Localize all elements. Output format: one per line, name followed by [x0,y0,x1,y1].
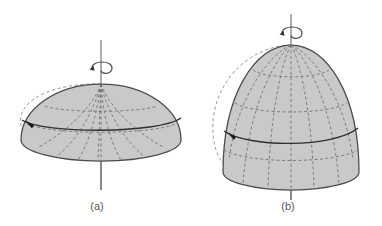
figure-container: (a) [0,0,382,226]
caption-b: (b) [281,200,294,212]
caption-a: (a) [90,200,103,212]
figure-svg: (a) [0,0,382,226]
